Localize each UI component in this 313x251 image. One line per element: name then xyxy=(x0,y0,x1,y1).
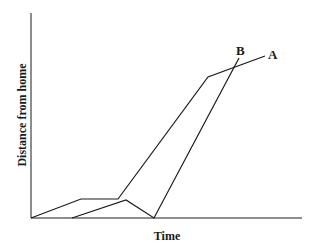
series-b-label: B xyxy=(236,43,245,58)
series-b-line xyxy=(72,58,239,218)
series-a-line xyxy=(31,56,265,218)
y-axis-label: Distance from home xyxy=(15,63,29,167)
series-a-label: A xyxy=(268,47,278,62)
x-axis-label: Time xyxy=(154,229,181,243)
distance-time-chart: B A Time Distance from home xyxy=(0,0,313,251)
